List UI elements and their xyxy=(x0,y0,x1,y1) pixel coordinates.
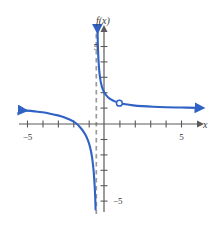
x-tick-label-5: 5 xyxy=(179,132,184,142)
y-tick-label-5: 5 xyxy=(94,42,99,52)
y-tick-label-minus5: −5 xyxy=(113,196,123,206)
graph-canvas: f(x) x −5 5 5 −5 xyxy=(0,0,219,229)
curve-right-branch xyxy=(97,26,197,108)
x-tick-label-minus5: −5 xyxy=(23,132,33,142)
y-axis-label: f(x) xyxy=(96,15,111,27)
x-axis-label: x xyxy=(202,119,208,130)
open-circle-hole xyxy=(116,100,122,106)
function-graph-figure: f(x) x −5 5 5 −5 xyxy=(0,0,219,229)
